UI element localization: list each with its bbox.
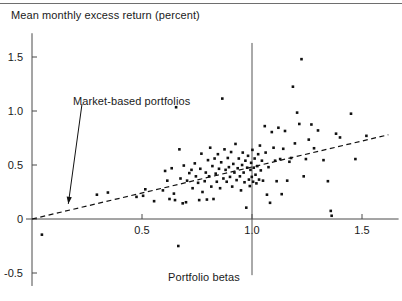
data-point: [252, 166, 255, 169]
data-point: [195, 175, 198, 178]
data-point: [282, 148, 285, 151]
y-tick-label: 0.5: [8, 159, 23, 171]
data-point: [365, 135, 368, 138]
data-point: [327, 180, 330, 183]
data-point: [170, 167, 173, 170]
data-point: [277, 126, 280, 129]
data-point: [227, 157, 230, 160]
data-point: [222, 177, 225, 180]
data-point: [211, 165, 214, 168]
data-point: [245, 206, 248, 209]
data-point: [296, 111, 299, 114]
data-point: [307, 138, 310, 141]
data-point: [217, 153, 220, 156]
data-point: [107, 191, 110, 194]
scatter-plot-canvas: 0.51.01.5 -0.500.51.01.5: [0, 0, 402, 301]
data-point: [199, 167, 202, 170]
data-point: [264, 151, 267, 154]
data-point: [313, 147, 316, 150]
y-tick-label: 0: [17, 213, 23, 225]
data-point: [208, 175, 211, 178]
data-point: [240, 189, 243, 192]
data-point: [269, 202, 272, 205]
data-point: [300, 58, 303, 61]
data-point: [223, 148, 226, 151]
data-point: [177, 245, 180, 248]
data-point: [198, 199, 201, 202]
data-point: [233, 171, 236, 174]
data-point: [263, 125, 266, 128]
data-point: [181, 202, 184, 205]
data-point: [188, 172, 191, 175]
data-point: [239, 175, 242, 178]
data-point: [317, 129, 320, 132]
data-point: [186, 179, 189, 182]
data-point: [250, 176, 253, 179]
data-point: [251, 149, 254, 152]
data-point: [260, 169, 263, 172]
data-point: [219, 187, 222, 190]
data-point: [214, 172, 217, 175]
data-point: [249, 169, 252, 172]
data-point: [298, 123, 301, 126]
data-point: [213, 157, 216, 160]
data-point: [248, 178, 251, 181]
data-point: [191, 187, 194, 190]
arrow-head: [67, 197, 72, 204]
axes-group: [26, 33, 399, 286]
data-point: [250, 162, 253, 165]
data-point: [267, 166, 270, 169]
data-point: [261, 159, 264, 162]
data-point: [185, 201, 188, 204]
data-point: [339, 136, 342, 139]
data-point: [203, 180, 206, 183]
data-point: [288, 160, 291, 163]
data-point: [194, 162, 197, 165]
data-point: [212, 198, 215, 201]
data-point: [302, 175, 305, 178]
data-point: [257, 153, 260, 156]
data-point: [230, 151, 233, 154]
data-point: [246, 166, 249, 169]
data-point: [183, 164, 186, 167]
data-point: [144, 188, 147, 191]
data-point: [249, 185, 252, 188]
data-point: [216, 180, 219, 183]
data-point: [322, 159, 325, 162]
annotation-arrow: [67, 104, 82, 204]
data-point: [330, 214, 333, 217]
data-point: [310, 123, 313, 126]
x-tick-label: 0.5: [134, 224, 149, 236]
data-point: [205, 171, 208, 174]
data-point: [241, 164, 244, 167]
data-point: [247, 155, 250, 158]
data-point: [142, 194, 145, 197]
arrow-shaft: [68, 104, 82, 204]
data-point: [234, 143, 237, 146]
data-point: [266, 193, 269, 196]
data-point: [280, 193, 283, 196]
data-point: [335, 132, 338, 135]
data-point: [206, 198, 209, 201]
data-point: [236, 167, 239, 170]
data-point: [218, 167, 221, 170]
data-point: [305, 158, 308, 161]
figure-container: Mean monthly excess return (percent) Por…: [0, 0, 402, 301]
data-point: [96, 193, 99, 196]
data-point: [262, 179, 265, 182]
data-point: [286, 179, 289, 182]
data-point: [200, 152, 203, 155]
data-point: [135, 196, 138, 199]
data-point: [201, 191, 204, 194]
data-point: [153, 200, 156, 203]
y-tick-label: 1.5: [8, 51, 23, 63]
data-point: [220, 161, 223, 164]
data-point: [243, 181, 246, 184]
data-point: [166, 179, 169, 182]
data-point: [173, 192, 176, 195]
data-point: [168, 198, 171, 201]
data-point: [294, 142, 297, 145]
data-point: [284, 130, 287, 133]
data-point: [279, 158, 282, 161]
data-point: [228, 166, 231, 169]
